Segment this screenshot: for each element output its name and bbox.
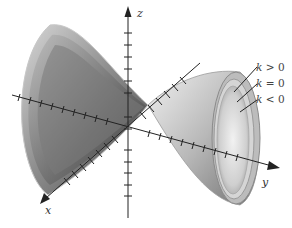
legend-rel: > bbox=[266, 61, 275, 73]
surface-right-rim-inner bbox=[217, 86, 249, 194]
legend-rel: = bbox=[266, 77, 275, 89]
surfaces-drawing bbox=[0, 0, 292, 228]
legend-k-positive: k > 0 bbox=[256, 62, 285, 73]
legend-var: k bbox=[256, 93, 262, 105]
legend-val: 0 bbox=[278, 77, 285, 89]
z-axis-label: z bbox=[137, 8, 143, 19]
legend-k-negative: k < 0 bbox=[256, 94, 285, 105]
diagram-canvas: z y x k > 0 k = 0 k < 0 bbox=[0, 0, 292, 228]
legend-var: k bbox=[256, 77, 262, 89]
legend-val: 0 bbox=[278, 93, 285, 105]
y-axis-label: y bbox=[262, 177, 268, 188]
x-axis-label: x bbox=[45, 205, 51, 216]
legend-var: k bbox=[256, 61, 262, 73]
legend-val: 0 bbox=[278, 61, 285, 73]
legend-rel: < bbox=[266, 93, 275, 105]
legend-k-zero: k = 0 bbox=[256, 78, 285, 89]
